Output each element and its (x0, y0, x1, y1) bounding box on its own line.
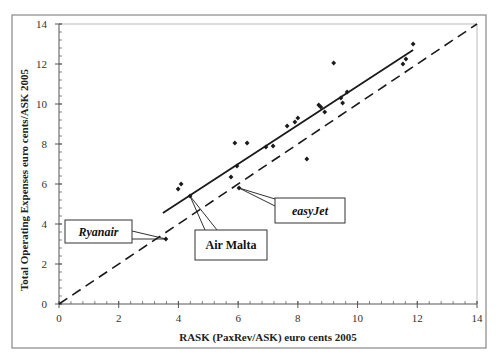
callout-label: Air Malta (206, 238, 257, 252)
y-tick-label: 6 (42, 178, 48, 190)
x-tick-label: 4 (176, 312, 182, 324)
chart-frame (12, 15, 486, 348)
y-tick-label: 4 (42, 218, 48, 230)
y-tick-label: 2 (42, 258, 48, 270)
x-tick-label: 12 (412, 312, 423, 324)
y-tick-label: 0 (42, 298, 48, 310)
x-axis-label: RASK (PaxRev/ASK) euro cents 2005 (179, 331, 357, 344)
y-tick-label: 14 (36, 18, 48, 30)
x-tick-label: 10 (352, 312, 364, 324)
scatter-chart: 0246810121402468101214 RyanairAir Maltae… (0, 0, 500, 363)
callout-label: Ryanair (78, 225, 119, 239)
x-tick-label: 14 (472, 312, 484, 324)
y-tick-label: 8 (42, 138, 48, 150)
x-tick-label: 8 (295, 312, 301, 324)
y-tick-label: 10 (36, 98, 48, 110)
y-tick-label: 12 (36, 58, 47, 70)
x-tick-label: 0 (56, 312, 62, 324)
x-tick-label: 6 (235, 312, 241, 324)
callout-label: easyJet (292, 204, 329, 218)
x-tick-label: 2 (116, 312, 122, 324)
y-axis-label: Total Operating Expenses euro cents/ASK … (18, 68, 30, 291)
